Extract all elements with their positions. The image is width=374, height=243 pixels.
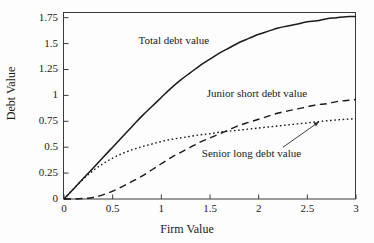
y-tick-label: 1.75: [14, 11, 58, 23]
y-axis-ticks: [64, 18, 69, 199]
data-series-group: [64, 17, 356, 199]
x-axis-title: Firm Value: [0, 222, 374, 237]
y-tick-label: 1.25: [14, 62, 58, 74]
y-tick-label: 0.5: [14, 140, 58, 152]
annotation-junior-short-debt-value: Junior short debt value: [207, 87, 308, 99]
y-tick-label: 0.25: [14, 166, 58, 178]
annotation-total-debt-value: Total debt value: [139, 34, 210, 46]
x-tick-label: 0.5: [93, 202, 133, 214]
x-tick-label: 1: [141, 202, 181, 214]
leader-line: [283, 122, 319, 147]
x-axis-ticks: [64, 195, 356, 200]
y-tick-label: 1.5: [14, 37, 58, 49]
y-tick-label: 1: [14, 88, 58, 100]
y-tick-label: 0.75: [14, 114, 58, 126]
series-line-total-debt-value: [64, 17, 356, 199]
y-tick-label: 0: [14, 192, 58, 204]
x-tick-label: 3: [336, 202, 374, 214]
x-tick-label: 2.5: [287, 202, 327, 214]
chart-figure: 00.511.522.53 00.250.50.7511.251.51.75 T…: [0, 0, 374, 243]
senior-long-leader-arrow: [283, 122, 319, 147]
y-axis-title: Debt Value: [4, 59, 19, 129]
x-tick-label: 2: [239, 202, 279, 214]
annotation-senior-long-debt-value: Senior long debt value: [202, 147, 301, 159]
x-tick-label: 1.5: [190, 202, 230, 214]
